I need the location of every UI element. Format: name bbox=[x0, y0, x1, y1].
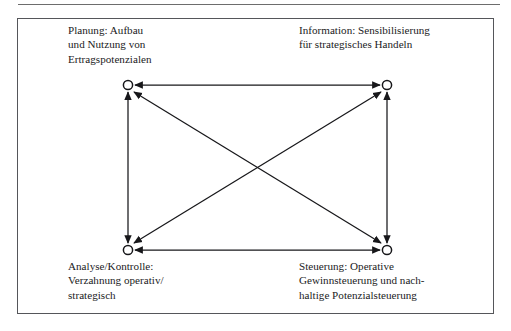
figure-page: Planung: Aufbau und Nutzung von Ertragsp… bbox=[0, 0, 511, 331]
node-label-steuerung: Steuerung: Operative Gewinnsteuerung und… bbox=[299, 259, 499, 302]
top-horizontal-rule bbox=[18, 4, 500, 5]
node-label-information: Information: Sensibilisierung für strate… bbox=[299, 23, 499, 52]
node-label-analyse-kontrolle: Analyse/Kontrolle: Verzahnung operativ/ … bbox=[68, 259, 258, 302]
node-label-planung: Planung: Aufbau und Nutzung von Ertragsp… bbox=[68, 23, 258, 66]
